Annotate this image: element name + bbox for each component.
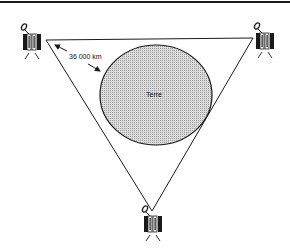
- earth-label: Terre: [146, 91, 162, 98]
- satellite-icon: [20, 23, 41, 59]
- satellite-icon: [253, 22, 274, 58]
- distance-label: 36 000 km: [69, 53, 102, 60]
- geostationary-satellites-diagram: [0, 0, 290, 251]
- distance-arrow: [55, 45, 67, 51]
- distance-arrow: [88, 64, 100, 71]
